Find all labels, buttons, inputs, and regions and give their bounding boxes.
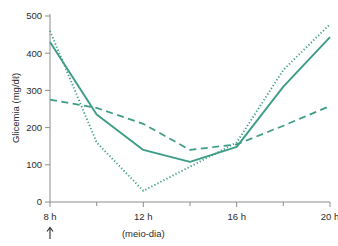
x-tick-label: 8 h [43, 211, 56, 222]
y-tick-label: 400 [26, 48, 42, 59]
y-tick-label: 300 [26, 85, 42, 96]
y-tick-marks [45, 16, 50, 202]
x-tick-label: 20 h [321, 211, 338, 222]
meio-dia-note: (meio-dia) [122, 228, 165, 239]
y-tick-label: 200 [26, 122, 42, 133]
x-tick-labels: 8 h 12 h 16 h 20 h [43, 211, 338, 222]
y-tick-label: 100 [26, 159, 42, 170]
y-tick-label: 500 [26, 10, 42, 21]
series-group [50, 24, 330, 191]
glicemia-chart-figure: 0 100 200 300 400 500 Glicemia (mg/dℓ) 8… [0, 0, 338, 246]
x-tick-marks [50, 202, 330, 207]
y-tick-label: 0 [37, 196, 42, 207]
x-tick-label: 12 h [134, 211, 153, 222]
injection-arrow-icon [47, 228, 53, 240]
y-tick-labels: 0 100 200 300 400 500 [26, 10, 42, 207]
series-solid-line [50, 37, 330, 162]
x-tick-label: 16 h [227, 211, 246, 222]
chart-canvas: 0 100 200 300 400 500 Glicemia (mg/dℓ) 8… [0, 0, 338, 246]
y-axis-title: Glicemia (mg/dℓ) [10, 73, 21, 143]
